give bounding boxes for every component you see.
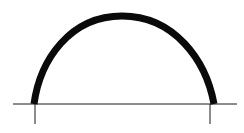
arch-curve bbox=[34, 16, 214, 104]
arch-diagram bbox=[0, 0, 244, 133]
arch-diagram-svg bbox=[0, 0, 244, 133]
